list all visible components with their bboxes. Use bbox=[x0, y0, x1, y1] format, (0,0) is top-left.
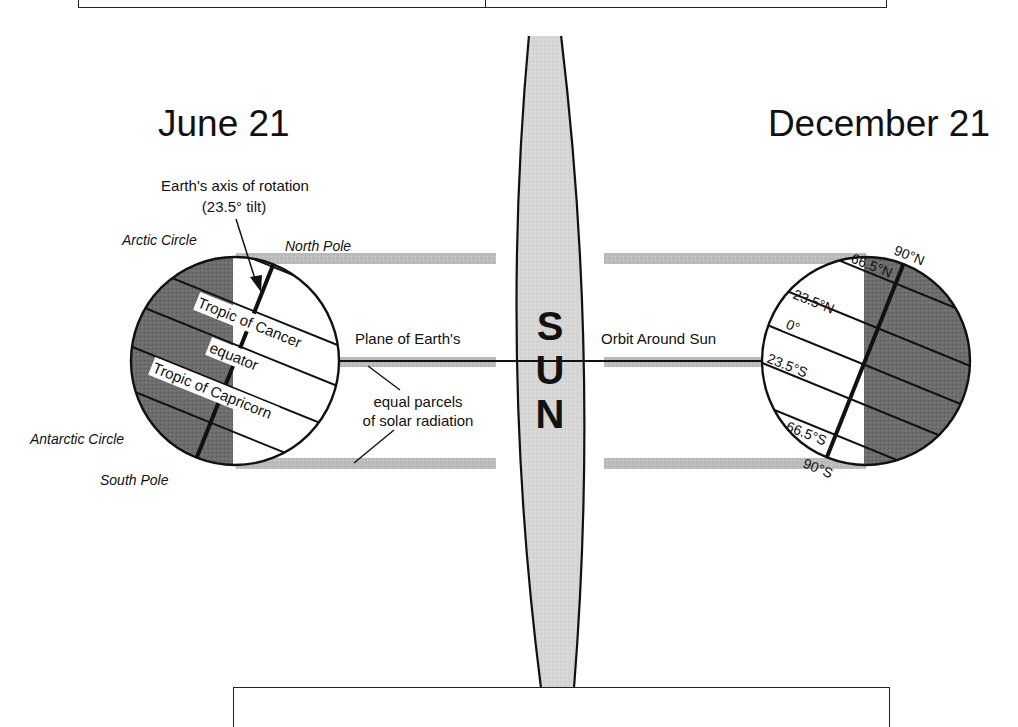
label-north-pole: North Pole bbox=[285, 238, 351, 254]
sun-letter-u: U bbox=[536, 348, 565, 392]
radiation-band-right-top bbox=[604, 253, 866, 264]
label-plane-of-earths: Plane of Earth's bbox=[355, 330, 460, 347]
label-orbit-around-sun: Orbit Around Sun bbox=[601, 330, 716, 347]
radiation-band-left-top bbox=[236, 253, 496, 264]
top-caption-box-right bbox=[484, 0, 887, 8]
earth-december-globe: 90°N 66.5°N 23.5°N 0° 23.5°S 66.5°S 90°S bbox=[750, 178, 980, 494]
radiation-band-left-bottom bbox=[236, 458, 496, 469]
sun-letter-s: S bbox=[537, 304, 564, 348]
label-of-solar-radiation: of solar radiation bbox=[363, 412, 474, 429]
top-caption-box bbox=[78, 0, 486, 8]
sun-letter-n: N bbox=[536, 392, 565, 436]
label-axis-tilt: (23.5° tilt) bbox=[202, 198, 266, 215]
label-arctic-circle: Arctic Circle bbox=[121, 232, 197, 248]
label-south-pole: South Pole bbox=[100, 472, 169, 488]
bottom-caption-box bbox=[233, 687, 890, 727]
label-antarctic-circle: Antarctic Circle bbox=[29, 431, 124, 447]
parcels-pointer-top bbox=[368, 366, 400, 390]
night-side-shade bbox=[864, 250, 974, 480]
date-december-21: December 21 bbox=[768, 103, 990, 144]
date-june-21: June 21 bbox=[158, 103, 290, 144]
label-equal-parcels: equal parcels bbox=[373, 393, 462, 410]
label-axis-of-rotation: Earth's axis of rotation bbox=[161, 177, 309, 194]
